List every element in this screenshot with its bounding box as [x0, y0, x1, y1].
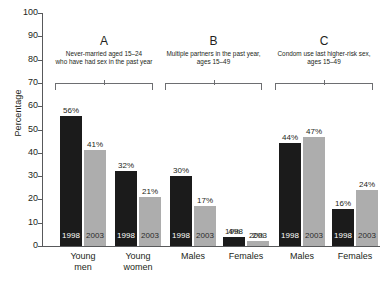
bar-value-label: 24%: [349, 180, 385, 189]
y-tick-label: 20: [16, 194, 38, 203]
y-tick-label: 0: [16, 241, 38, 250]
panel-header-a: A Never-married aged 15–24 who have had …: [55, 35, 153, 65]
y-tick-label: 70: [16, 78, 38, 87]
bar-value-label: 41%: [77, 140, 113, 149]
bar: [60, 116, 82, 246]
bar: [194, 206, 216, 246]
plot-area: A Never-married aged 15–24 who have had …: [43, 13, 380, 246]
panel-header-b: B Multiple partners in the past year, ag…: [165, 35, 262, 65]
y-tick-label: 50: [16, 125, 38, 134]
panel-header-c: C Condom use last higher-risk sex, ages …: [275, 35, 373, 65]
bar-value-label: 30%: [163, 166, 199, 175]
bar-year-label: 2003: [349, 231, 385, 240]
y-tick-label: 80: [16, 55, 38, 64]
panel-bracket-b: [165, 83, 262, 90]
x-axis-line: [42, 246, 380, 247]
panel-letter-a: A: [55, 35, 153, 48]
x-axis-label: Young women: [108, 251, 168, 272]
y-tick-label: 90: [16, 31, 38, 40]
bracket-stem: [214, 80, 215, 85]
bar-value-label: 21%: [132, 187, 168, 196]
panel-caption-a: Never-married aged 15–24 who have had se…: [55, 50, 153, 65]
bar-value-label: 47%: [296, 127, 332, 136]
bar-value-label: 32%: [108, 161, 144, 170]
bar-year-label: 2003: [240, 231, 276, 240]
y-tick-label: 60: [16, 101, 38, 110]
bracket-stem: [324, 80, 325, 85]
bar-value-label: 56%: [53, 106, 89, 115]
y-tick-label: 10: [16, 218, 38, 227]
bar: [303, 137, 325, 247]
bracket-stem: [104, 80, 105, 85]
bar-chart: Percentage 1009080706050403020100 A Neve…: [0, 0, 386, 289]
panel-letter-b: B: [165, 35, 262, 48]
y-tick-label: 30: [16, 171, 38, 180]
x-axis-label: Young men: [53, 251, 113, 272]
panel-bracket-c: [275, 83, 373, 90]
x-axis-label: Females: [325, 251, 385, 262]
y-axis-ticks: 1009080706050403020100: [0, 0, 38, 289]
bar: [247, 241, 269, 246]
panel-caption-c: Condom use last higher-risk sex, ages 15…: [275, 50, 373, 65]
panel-caption-b: Multiple partners in the past year, ages…: [165, 50, 262, 65]
x-axis-label: Males: [163, 251, 223, 262]
bar: [332, 209, 354, 246]
x-axis-label: Females: [216, 251, 276, 262]
bar-value-label: 17%: [187, 196, 223, 205]
panel-letter-c: C: [275, 35, 373, 48]
y-tick-label: 100: [16, 8, 38, 17]
x-axis-label: Males: [272, 251, 332, 262]
y-tick-label: 40: [16, 148, 38, 157]
panel-bracket-a: [55, 83, 153, 90]
